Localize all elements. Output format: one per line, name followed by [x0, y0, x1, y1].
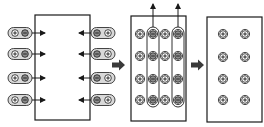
negative-charge-icon [94, 75, 101, 82]
positive-charge-icon [160, 29, 169, 38]
positive-charge-icon [12, 30, 19, 37]
positive-charge-icon [218, 52, 227, 61]
negative-charge-icon [148, 95, 157, 104]
positive-charge-icon [135, 74, 144, 83]
positive-charge-icon [160, 74, 169, 83]
arrow-shape [191, 60, 204, 71]
positive-charge-icon [218, 74, 227, 83]
positive-charge-icon [240, 52, 249, 61]
positive-charge-icon [12, 51, 19, 58]
negative-charge-icon [22, 51, 29, 58]
positive-charge-icon [240, 74, 249, 83]
positive-charge-icon [218, 29, 227, 38]
negative-charge-icon [94, 30, 101, 37]
positive-charge-icon [105, 51, 112, 58]
negative-charge-icon [148, 29, 157, 38]
positive-charge-icon [105, 30, 112, 37]
positive-charge-icon [160, 51, 169, 60]
negative-charge-icon [22, 97, 29, 104]
negative-charge-icon [22, 75, 29, 82]
negative-charge-icon [94, 97, 101, 104]
positive-charge-icon [240, 95, 249, 104]
negative-charge-icon [173, 51, 182, 60]
positive-charge-icon [218, 95, 227, 104]
positive-charge-icon [135, 51, 144, 60]
transition-arrow-icon [191, 60, 204, 71]
positive-charge-icon [12, 97, 19, 104]
panel-1-box [35, 15, 90, 120]
negative-charge-icon [22, 30, 29, 37]
panel-3-box [207, 17, 262, 122]
negative-charge-icon [94, 51, 101, 58]
negative-charge-icon [173, 95, 182, 104]
negative-charge-icon [173, 74, 182, 83]
positive-charge-icon [105, 97, 112, 104]
charge-separation-diagram [0, 0, 264, 127]
arrow-shape [112, 60, 125, 71]
positive-charge-icon [135, 29, 144, 38]
negative-charge-icon [173, 29, 182, 38]
negative-charge-icon [148, 51, 157, 60]
positive-charge-icon [12, 75, 19, 82]
transition-arrow-icon [112, 60, 125, 71]
negative-charge-icon [148, 74, 157, 83]
positive-charge-icon [105, 75, 112, 82]
positive-charge-icon [160, 95, 169, 104]
positive-charge-icon [135, 95, 144, 104]
positive-charge-icon [240, 29, 249, 38]
